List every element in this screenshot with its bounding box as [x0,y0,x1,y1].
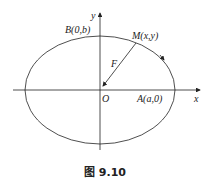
y-axis-label: y [90,10,96,21]
force-vector [103,43,136,86]
x-axis-label: x [193,93,199,104]
point-a-label: A(a,0) [136,93,163,105]
ellipse-diagram: y x O A(a,0) B(0,b) M(x,y) F [0,0,210,184]
figure-caption: 图 9.10 [0,163,210,179]
point-m-label: M(x,y) [131,30,159,42]
force-label: F [110,58,118,69]
point-b-label: B(0,b) [65,24,91,36]
origin-label: O [102,93,109,104]
